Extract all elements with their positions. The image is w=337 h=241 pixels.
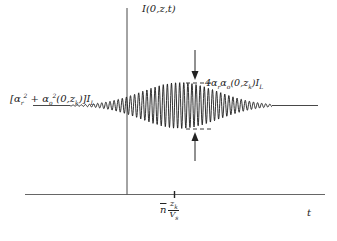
y-axis-label: I(0,z,t) [142, 4, 176, 14]
amplitude-label: 4αrαo(0,zk)IL [205, 78, 263, 90]
up-arrow-icon [192, 132, 199, 161]
baseline-label: [αr2 + αo2(0,zk)]IL [10, 93, 94, 106]
down-arrow-icon [192, 50, 199, 80]
tick-label: nzkVs [160, 200, 179, 220]
interference-intensity-diagram: I(0,z,t) [αr2 + αo2(0,zk)]IL 4αrαo(0,zk)… [0, 0, 337, 241]
x-axis-label: t [307, 208, 311, 218]
